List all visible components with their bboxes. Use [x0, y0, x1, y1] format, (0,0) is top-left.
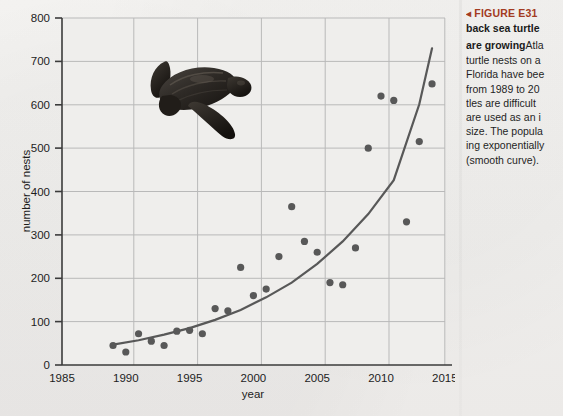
- y-tick-label: 200: [31, 272, 50, 284]
- scatter-point: [416, 138, 423, 145]
- y-axis-ticks: [55, 18, 62, 365]
- caption-left-triangle-icon: ◂: [466, 8, 471, 19]
- x-tick-label: 1985: [49, 372, 75, 384]
- y-tick-label: 500: [31, 142, 50, 154]
- y-axis-tick-labels: 0100200300400500600700800: [31, 12, 50, 371]
- scatter-point: [377, 92, 384, 99]
- scatter-point: [428, 80, 435, 87]
- figure-panel: 0100200300400500600700800 19851990199520…: [0, 0, 455, 416]
- scatter-point: [237, 264, 244, 271]
- y-tick-label: 400: [31, 186, 50, 198]
- caption-body-line-6: size. The popula: [466, 124, 563, 138]
- scatter-point: [365, 145, 372, 152]
- caption-bold-line-1: back sea turtle: [466, 21, 563, 35]
- x-tick-label: 2000: [241, 372, 267, 384]
- caption-body-line-8: (smooth curve).: [466, 153, 563, 167]
- scatter-point: [263, 285, 270, 292]
- y-axis-title: number of nests: [20, 150, 32, 233]
- scatter-point: [301, 238, 308, 245]
- scatter-point: [403, 218, 410, 225]
- caption-body-fragment: Atla: [526, 39, 544, 51]
- x-tick-label: 2005: [304, 372, 330, 384]
- scatter-point: [288, 203, 295, 210]
- caption-body-line-3: from 1989 to 20: [466, 82, 563, 96]
- caption-body-line-1: turtle nests on a: [466, 53, 563, 67]
- scatter-point: [250, 292, 257, 299]
- figure-caption: ◂ FIGURE E31 back sea turtle are growing…: [466, 6, 563, 410]
- y-tick-label: 600: [31, 99, 50, 111]
- scatter-point: [352, 244, 359, 251]
- caption-body-line-7: ing exponentially: [466, 138, 563, 152]
- caption-bold-line-2: are growingAtla: [466, 35, 563, 53]
- scatter-point: [390, 97, 397, 104]
- y-tick-label: 300: [31, 229, 50, 241]
- figure-number-label: FIGURE E31: [474, 7, 537, 19]
- scatter-point: [224, 307, 231, 314]
- x-tick-label: 2015: [432, 372, 455, 384]
- scatter-point: [148, 338, 155, 345]
- scatter-point: [135, 330, 142, 337]
- scatter-point: [173, 328, 180, 335]
- caption-body-line-5: are used as an i: [466, 110, 563, 124]
- scatter-point: [275, 253, 282, 260]
- figure-caption-heading: ◂ FIGURE E31: [466, 6, 563, 21]
- y-tick-label: 700: [31, 55, 50, 67]
- y-tick-label: 800: [31, 12, 50, 24]
- scatter-point: [186, 327, 193, 334]
- scatter-point: [122, 348, 129, 355]
- column-divider: [459, 0, 462, 416]
- nest-count-scatter-chart: 0100200300400500600700800 19851990199520…: [0, 0, 455, 416]
- x-tick-label: 1995: [177, 372, 203, 384]
- x-tick-label: 2010: [368, 372, 394, 384]
- x-axis-tick-labels: 1985199019952000200520102015: [49, 372, 455, 384]
- scatter-point: [212, 305, 219, 312]
- scatter-point: [339, 281, 346, 288]
- scatter-point: [109, 342, 116, 349]
- x-tick-label: 1990: [113, 372, 139, 384]
- caption-body-line-2: Florida have bee: [466, 67, 563, 81]
- scatter-point: [314, 249, 321, 256]
- x-axis-title: year: [242, 388, 265, 400]
- y-tick-label: 100: [31, 316, 50, 328]
- scatter-point: [160, 342, 167, 349]
- scatter-point: [326, 279, 333, 286]
- caption-bold-fragment: are growing: [466, 39, 526, 51]
- caption-body-line-4: tles are difficult: [466, 96, 563, 110]
- y-tick-label: 0: [44, 359, 50, 371]
- scatter-point: [199, 330, 206, 337]
